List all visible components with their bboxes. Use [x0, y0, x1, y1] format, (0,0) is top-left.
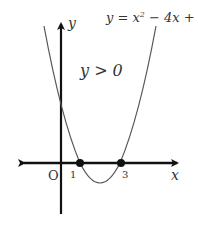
equation-label: y = x2 − 4x + 3 — [105, 10, 198, 25]
y-axis-label: y — [67, 15, 77, 31]
x-axis-label: x — [171, 167, 179, 183]
root-point-3 — [117, 159, 125, 167]
root-point-1 — [76, 159, 84, 167]
parabola-graph: y x O 1 3 y > 0 y = x2 − 4x + 3 — [0, 0, 198, 227]
tick-label-1: 1 — [70, 169, 76, 180]
origin-label: O — [48, 168, 59, 183]
region-label: y > 0 — [79, 61, 123, 80]
tick-label-3: 3 — [122, 169, 128, 180]
